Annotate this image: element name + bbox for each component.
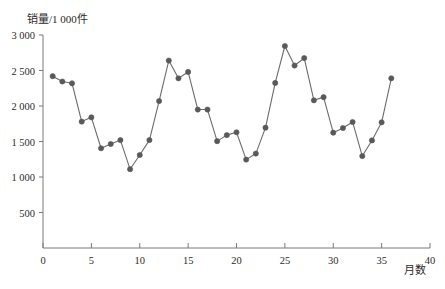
x-tick-label: 35	[376, 255, 387, 266]
data-point	[292, 63, 297, 68]
y-tick-group	[39, 35, 43, 213]
data-point	[157, 98, 162, 103]
x-tick-label: 0	[40, 255, 45, 266]
x-axis-group: 0510152025303540	[40, 243, 435, 266]
data-point	[263, 125, 268, 130]
data-point	[331, 130, 336, 135]
y-tick-label-group: 5001 0001 5002 0002 5003 000	[11, 30, 35, 219]
data-point	[108, 141, 113, 146]
data-point	[253, 151, 258, 156]
data-point	[50, 74, 55, 79]
data-point	[273, 80, 278, 85]
data-series-group	[50, 43, 394, 171]
data-point	[205, 107, 210, 112]
data-point	[137, 152, 142, 157]
x-tick-label: 30	[328, 255, 339, 266]
y-tick-label: 3 000	[11, 30, 35, 41]
data-point	[340, 125, 345, 130]
data-point	[89, 115, 94, 120]
y-tick-label: 500	[19, 208, 35, 219]
data-point	[350, 119, 355, 124]
data-point	[360, 153, 365, 158]
y-axis-group: 5001 0001 5002 0002 5003 000	[11, 30, 43, 248]
data-point	[244, 157, 249, 162]
data-point	[118, 137, 123, 142]
x-tick-label: 20	[231, 255, 242, 266]
x-tick-label: 15	[183, 255, 194, 266]
data-point	[147, 137, 152, 142]
data-point	[215, 139, 220, 144]
data-point	[186, 69, 191, 74]
data-point	[282, 43, 287, 48]
x-tick-label-group: 0510152025303540	[40, 255, 435, 266]
data-point	[176, 76, 181, 81]
data-point	[311, 98, 316, 103]
data-point	[369, 138, 374, 143]
x-tick-label: 10	[135, 255, 146, 266]
data-point	[69, 81, 74, 86]
chart-plot-area: 5001 0001 5002 0002 5003 000 05101520253…	[0, 0, 445, 289]
data-point	[302, 55, 307, 60]
data-point	[234, 130, 239, 135]
series-marker-group	[50, 43, 394, 171]
data-point	[321, 95, 326, 100]
data-point	[379, 120, 384, 125]
y-tick-label: 2 000	[11, 101, 35, 112]
data-point	[195, 107, 200, 112]
data-point	[60, 79, 65, 84]
y-tick-label: 1 000	[11, 172, 35, 183]
y-tick-label: 2 500	[11, 66, 35, 77]
data-point	[79, 119, 84, 124]
x-tick-label: 25	[280, 255, 291, 266]
data-point	[224, 133, 229, 138]
data-point	[166, 58, 171, 63]
x-tick-label: 5	[89, 255, 94, 266]
series-line-sales	[53, 46, 392, 169]
x-tick-label: 40	[425, 255, 436, 266]
line-chart: 销量/1 000件 月数 5001 0001 5002 0002 5003 00…	[0, 0, 445, 289]
data-point	[98, 146, 103, 151]
x-tick-group	[43, 243, 430, 248]
data-point	[127, 167, 132, 172]
y-tick-label: 1 500	[11, 137, 35, 148]
data-point	[389, 76, 394, 81]
